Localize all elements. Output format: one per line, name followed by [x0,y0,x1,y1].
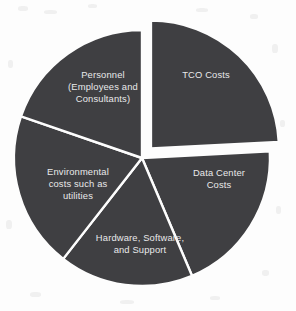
pie-chart-svg: TCO CostsData CenterCostsHardware, Softw… [0,0,296,311]
pie-slice[interactable] [151,21,279,149]
pie-chart: TCO CostsData CenterCostsHardware, Softw… [0,0,296,311]
pie-slice-label: TCO Costs [182,69,230,80]
